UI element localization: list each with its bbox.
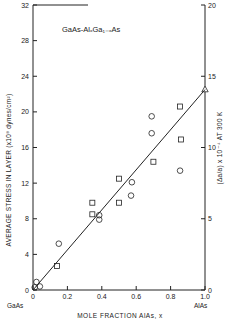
x-axis-label: MOLE FRACTION AlAs, x — [77, 312, 163, 319]
y-tick-label: 20 — [21, 108, 29, 115]
y2-axis-label: (Δa/a) x 10⁻⁴ AT 300 K — [216, 111, 224, 185]
y2-tick-label: 15 — [208, 73, 216, 80]
y-tick-label: 4 — [25, 251, 29, 258]
x-tick-label: 0.8 — [166, 293, 176, 300]
y-tick-label: 28 — [21, 37, 29, 44]
circle-marker — [177, 168, 183, 174]
y2-tick-label: 5 — [208, 215, 212, 222]
x-tick-label: 0.2 — [63, 293, 73, 300]
fit-line — [33, 90, 205, 290]
y-tick-label: 32 — [21, 2, 29, 9]
y-tick-label: 12 — [21, 180, 29, 187]
chart-title: GaAs-AlₓGa₁₋ₓAs — [62, 25, 120, 34]
square-marker — [151, 159, 156, 164]
x-tick-label: 1.0 — [200, 293, 210, 300]
x-end-label-right: AlAs — [194, 302, 208, 309]
y-tick-label: 24 — [21, 73, 29, 80]
y-axis-label: AVERAGE STRESS IN LAYER (x10⁸ dynes/cm²) — [5, 94, 13, 247]
square-marker — [117, 176, 122, 181]
triangle-marker — [202, 86, 208, 92]
y2-tick-label: 20 — [208, 2, 216, 9]
y-tick-label: 16 — [21, 144, 29, 151]
circle-marker — [128, 193, 134, 199]
square-marker — [178, 137, 183, 142]
circle-marker — [56, 241, 62, 247]
x-tick-label: 0.6 — [131, 293, 141, 300]
circle-marker — [129, 179, 135, 185]
square-marker — [90, 200, 95, 205]
y-tick-label: 0 — [25, 287, 29, 294]
square-marker — [178, 104, 183, 109]
x-tick-label: 0 — [31, 293, 35, 300]
stress-vs-mole-fraction-chart: 0481216202428320510152000.20.40.60.81.0 … — [0, 0, 230, 322]
square-marker — [90, 212, 95, 217]
plot-area — [32, 86, 208, 290]
y2-tick-label: 10 — [208, 144, 216, 151]
y-tick-label: 8 — [25, 215, 29, 222]
circle-marker — [149, 114, 155, 120]
axes: 0481216202428320510152000.20.40.60.81.0 — [21, 2, 216, 301]
x-end-label-left: GaAs — [7, 302, 24, 309]
square-marker — [117, 200, 122, 205]
x-tick-label: 0.4 — [97, 293, 107, 300]
circle-marker — [149, 130, 155, 136]
